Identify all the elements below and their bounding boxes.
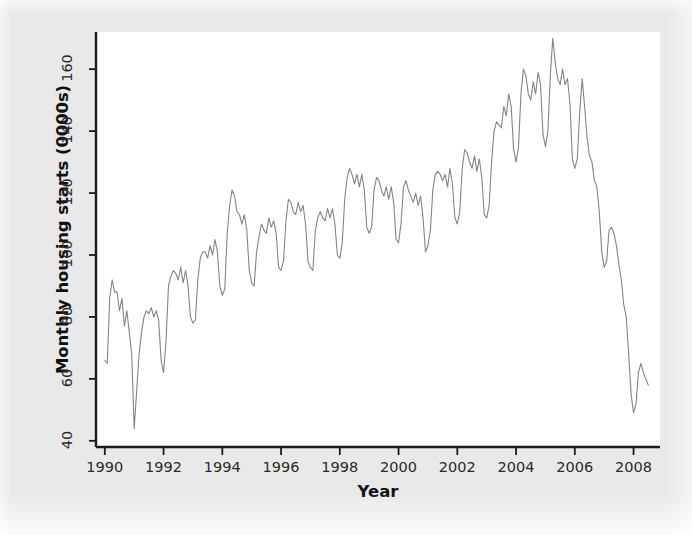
x-axis-title: Year	[96, 482, 660, 501]
y-tick-label: 160	[59, 51, 75, 85]
x-tick-label: 1990	[79, 459, 131, 475]
x-tick-label: 2006	[549, 459, 601, 475]
x-tick-label: 1996	[255, 459, 307, 475]
series-line-monthly-housing-starts	[105, 38, 648, 428]
y-tick-label: 40	[59, 423, 75, 457]
figure-page: Monthly housing starts (0000s) Year 4060…	[0, 0, 692, 535]
x-tick-label: 2008	[608, 459, 660, 475]
y-tick-label: 140	[59, 113, 75, 147]
x-axis-ticks	[105, 447, 634, 455]
y-tick-label: 100	[59, 237, 75, 271]
x-tick-label: 2000	[373, 459, 425, 475]
x-tick-label: 1994	[196, 459, 248, 475]
x-tick-label: 1998	[314, 459, 366, 475]
y-tick-label: 80	[59, 299, 75, 333]
data-series-group	[105, 38, 648, 428]
chart-figure: Monthly housing starts (0000s) Year 4060…	[0, 0, 692, 535]
line-chart-svg	[0, 0, 692, 535]
y-tick-label: 120	[59, 175, 75, 209]
x-tick-label: 2002	[431, 459, 483, 475]
x-tick-label: 2004	[490, 459, 542, 475]
y-tick-label: 60	[59, 361, 75, 395]
x-tick-label: 1992	[138, 459, 190, 475]
axes-group	[89, 32, 660, 455]
